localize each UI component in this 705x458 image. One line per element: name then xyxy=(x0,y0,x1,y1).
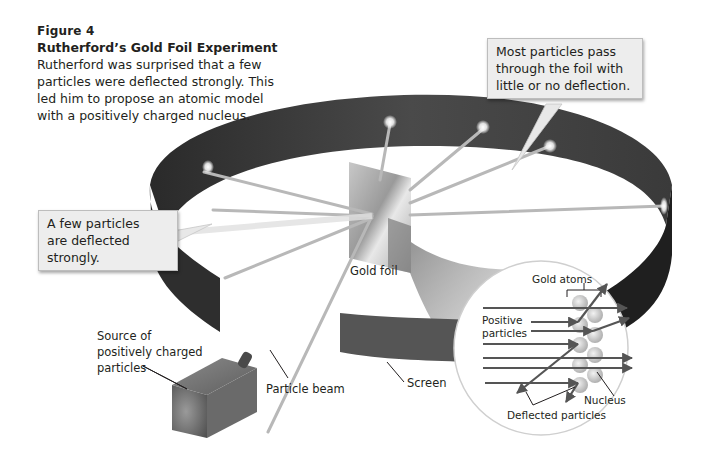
callout-line: are deflected xyxy=(47,232,169,249)
inset-label-deflected-particles: Deflected particles xyxy=(507,409,606,422)
inset-label-nucleus: Nucleus xyxy=(584,394,626,407)
callout-line: through the foil with xyxy=(496,60,634,77)
callout-line: little or no deflection. xyxy=(496,77,634,94)
figure-number: Figure 4 xyxy=(37,24,337,39)
figure-caption-line: led him to propose an atomic model xyxy=(37,90,337,107)
figure-title: Rutherford’s Gold Foil Experiment xyxy=(37,39,337,56)
callout-line: Most particles pass xyxy=(496,43,634,60)
label-line: particles xyxy=(97,360,203,376)
label-gold-foil: Gold foil xyxy=(350,264,398,278)
label-line: Source of xyxy=(97,328,203,344)
figure-caption-line: particles were deflected strongly. This xyxy=(37,73,337,90)
figure-caption: Figure 4 Rutherford’s Gold Foil Experime… xyxy=(37,24,337,124)
screen-front-strip xyxy=(340,313,470,362)
callout-line: A few particles xyxy=(47,215,169,232)
inset-label-positive-particles: Positive particles xyxy=(482,314,527,340)
label-source: Source of positively charged particles xyxy=(97,328,203,376)
label-particle-beam: Particle beam xyxy=(266,382,345,396)
figure-caption-line: Rutherford was surprised that a few xyxy=(37,56,337,73)
figure-caption-line: with a positively charged nucleus. xyxy=(37,107,337,124)
callout-most-particles: Most particles pass through the foil wit… xyxy=(487,38,643,99)
callout-few-particles: A few particles are deflected strongly. xyxy=(38,210,178,271)
label-line: particles xyxy=(482,327,527,340)
callout-line: strongly. xyxy=(47,249,169,266)
label-line: Positive xyxy=(482,314,527,327)
label-screen: Screen xyxy=(407,376,447,390)
inset-label-gold-atoms: Gold atoms xyxy=(532,273,592,286)
label-line: positively charged xyxy=(97,344,203,360)
